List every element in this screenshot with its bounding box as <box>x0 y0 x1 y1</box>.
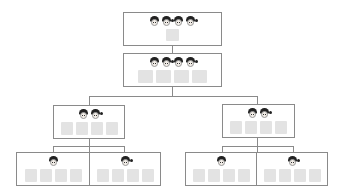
cell-group <box>223 121 294 134</box>
cell-group <box>17 169 89 182</box>
empty-cell <box>127 169 139 182</box>
empty-cell <box>112 169 124 182</box>
girl-face-icon <box>90 109 101 120</box>
empty-cell <box>279 169 291 182</box>
empty-cell <box>275 121 287 134</box>
boy-face-icon <box>48 156 59 167</box>
connector-level1-down <box>172 87 173 96</box>
connector-left-drop <box>89 96 90 105</box>
cell-group <box>124 29 221 41</box>
node-left <box>53 105 125 139</box>
empty-cell <box>192 70 207 83</box>
connector-left-horizontal <box>53 146 125 147</box>
boy-face-icon <box>216 156 227 167</box>
empty-cell <box>174 70 189 83</box>
face-group <box>124 57 221 68</box>
face-group <box>17 156 89 167</box>
empty-cell <box>166 29 179 41</box>
connector-level1-horizontal <box>89 96 258 97</box>
node-left-girl <box>89 152 161 186</box>
empty-cell <box>245 121 257 134</box>
node-level1 <box>123 53 222 87</box>
node-right-boy <box>185 152 257 186</box>
empty-cell <box>76 122 88 135</box>
empty-cell <box>223 169 235 182</box>
cell-group <box>186 169 256 182</box>
empty-cell <box>309 169 321 182</box>
face-group <box>257 156 327 167</box>
girl-face-icon <box>287 156 298 167</box>
girl-face-icon <box>259 108 270 119</box>
cell-group <box>54 122 124 135</box>
empty-cell <box>138 70 153 83</box>
face-group <box>124 16 221 27</box>
cell-group <box>257 169 327 182</box>
boy-face-icon <box>149 16 160 27</box>
boy-face-icon <box>247 108 258 119</box>
empty-cell <box>264 169 276 182</box>
empty-cell <box>25 169 37 182</box>
girl-face-icon <box>185 16 196 27</box>
girl-face-icon <box>185 57 196 68</box>
node-right <box>222 104 295 138</box>
node-left-boy <box>16 152 90 186</box>
empty-cell <box>238 169 250 182</box>
cell-group <box>124 70 221 83</box>
cell-group <box>90 169 160 182</box>
boy-face-icon <box>78 109 89 120</box>
girl-face-icon <box>161 57 172 68</box>
empty-cell <box>208 169 220 182</box>
empty-cell <box>61 122 73 135</box>
empty-cell <box>294 169 306 182</box>
empty-cell <box>55 169 67 182</box>
face-group <box>223 108 294 119</box>
empty-cell <box>193 169 205 182</box>
node-root <box>123 12 222 46</box>
face-group <box>186 156 256 167</box>
face-group <box>90 156 160 167</box>
boy-face-icon <box>173 16 184 27</box>
connector-right-down <box>257 138 258 152</box>
boy-face-icon <box>149 57 160 68</box>
empty-cell <box>106 122 118 135</box>
node-right-girl <box>256 152 328 186</box>
face-group <box>54 109 124 120</box>
girl-face-icon <box>161 16 172 27</box>
boy-face-icon <box>173 57 184 68</box>
connector-root-level1 <box>172 45 173 53</box>
empty-cell <box>260 121 272 134</box>
empty-cell <box>40 169 52 182</box>
empty-cell <box>230 121 242 134</box>
girl-face-icon <box>120 156 131 167</box>
connector-right-horizontal <box>222 146 294 147</box>
empty-cell <box>97 169 109 182</box>
empty-cell <box>70 169 82 182</box>
empty-cell <box>91 122 103 135</box>
connector-left-down <box>89 138 90 152</box>
empty-cell <box>142 169 154 182</box>
empty-cell <box>156 70 171 83</box>
